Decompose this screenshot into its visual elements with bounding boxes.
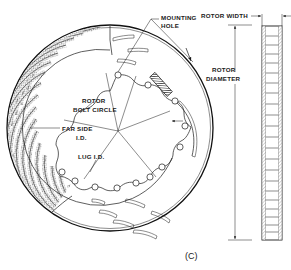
mounting-hole	[133, 180, 139, 186]
mounting-hole	[145, 82, 151, 88]
mounting-hole	[72, 178, 78, 184]
label-rotor-bolt-circle-line1: ROTOR	[82, 97, 106, 104]
mounting-hole	[115, 72, 121, 78]
mounting-hole	[172, 98, 178, 104]
mounting-hole	[177, 144, 183, 150]
page-background	[0, 0, 291, 270]
side-view-face-shading-left	[262, 26, 265, 239]
mounting-hole	[92, 184, 98, 190]
label-rotor-diameter-line2: DIAMETER	[206, 75, 241, 82]
mounting-hole	[114, 185, 120, 191]
mounting-hole	[182, 123, 188, 129]
label-far-side-id-line2: I.D.	[76, 134, 87, 141]
label-far-side-id-line1: FAR SIDE	[62, 125, 93, 132]
label-rotor-width: ROTOR WIDTH	[201, 12, 248, 19]
rotor-side-view	[262, 26, 282, 240]
figure-caption: (C)	[185, 251, 198, 261]
mounting-hole	[159, 164, 165, 170]
label-lug-id: LUG I.D.	[78, 153, 104, 160]
label-rotor-diameter-line1: ROTOR	[212, 66, 236, 73]
label-rotor-bolt-circle-line2: BOLT CIRCLE	[73, 106, 117, 113]
mounting-hole	[59, 169, 65, 175]
mounting-hole	[147, 174, 153, 180]
label-mounting-hole-line1: MOUNTING	[161, 14, 197, 21]
rotor-technical-diagram: MOUNTING HOLE ROTOR BOLT CIRCLE FAR SIDE…	[0, 0, 291, 270]
label-mounting-hole-line2: HOLE	[161, 22, 179, 29]
side-view-face-shading-right	[279, 26, 282, 239]
